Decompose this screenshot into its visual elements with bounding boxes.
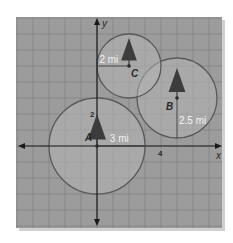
coordinate-plane-figure: ABC3 mi2.5 mi2 mi42xy (0, 0, 233, 243)
radius-label-a: 3 mi (110, 133, 129, 144)
point-label-c: C (131, 68, 139, 79)
center-point-b (175, 96, 179, 100)
radius-label-b: 2.5 mi (179, 115, 206, 126)
x-axis-label: x (215, 150, 222, 161)
y-tick-label: 2 (90, 110, 95, 119)
point-label-b: B (166, 101, 173, 112)
center-point-a (95, 144, 99, 148)
y-axis-label: y (101, 18, 108, 29)
x-tick-label: 4 (158, 149, 163, 158)
radius-label-c: 2 mi (99, 54, 118, 65)
point-label-a: A (84, 132, 92, 143)
